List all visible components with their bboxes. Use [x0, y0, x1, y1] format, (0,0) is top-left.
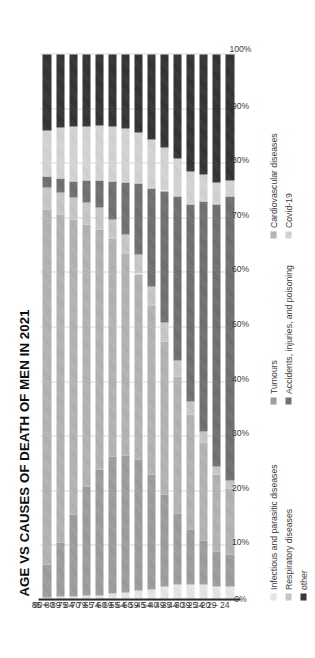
bar-segment [147, 54, 155, 139]
bar-row [173, 54, 181, 600]
bar-segment [212, 182, 220, 204]
legend-item[interactable]: Infectious and parasitic diseases [268, 464, 278, 600]
bar-segment [108, 126, 116, 181]
bar-segment [186, 54, 194, 171]
bar-segment [225, 554, 233, 587]
bar-segment [173, 158, 181, 196]
legend-item[interactable]: Cardiovascular diseases [268, 133, 278, 238]
legend-item[interactable]: Respiratory diseases [283, 508, 293, 600]
bar-segment [134, 132, 142, 184]
bar-segment [173, 196, 181, 360]
bar-row [56, 54, 64, 600]
bar-segment [95, 207, 103, 229]
bar-segment [42, 209, 50, 564]
bar-segment [134, 274, 142, 460]
bar-segment [108, 238, 116, 456]
bar-segment [82, 224, 90, 486]
bar-segment [186, 171, 194, 204]
value-axis-tick: 30% [231, 428, 248, 438]
legend-swatch-icon [270, 232, 277, 239]
bar-segment [82, 202, 90, 224]
bar-segment [173, 513, 181, 584]
bar-row [108, 54, 116, 600]
bar-segment [186, 401, 194, 415]
bar-segment [108, 54, 116, 126]
bar-segment [95, 180, 103, 207]
legend-item[interactable]: Accidents, injuries, and poisoning [283, 265, 293, 404]
legend-item-label: Accidents, injuries, and poisoning [283, 265, 293, 394]
bar-segment [42, 130, 50, 176]
legend-item-label: Covid-19 [283, 193, 293, 228]
rotated-figure-wrapper: AGE VS CAUSES OF DEATH OF MEN IN 2021 10… [0, 0, 315, 658]
bar-segment [56, 179, 64, 193]
bar-segment [82, 54, 90, 126]
bar-segment [160, 341, 168, 494]
bar-segment [212, 551, 220, 586]
value-axis-tick: 50% [231, 318, 248, 328]
bar-row [95, 54, 103, 600]
legend-swatch-icon [285, 232, 292, 239]
bar-segment [95, 54, 103, 125]
bar-segment [160, 191, 168, 322]
bar-segment [173, 584, 181, 600]
bar-row [42, 54, 50, 600]
bar-row [147, 54, 155, 600]
value-axis-tick: 80% [231, 155, 248, 165]
bar-segment [56, 214, 64, 542]
bar-segment [199, 540, 207, 584]
legend-item[interactable]: Covid-19 [283, 193, 293, 238]
bar-segment [147, 139, 155, 188]
bar-segment [108, 456, 116, 593]
value-axis-tick: 100% [229, 43, 251, 53]
bar-segment [69, 197, 77, 219]
bar-segment [42, 564, 50, 597]
bar-segment [121, 455, 129, 592]
bar-segment [121, 128, 129, 183]
bar-segment [160, 54, 168, 147]
category-axis-tick: 90+ [32, 599, 47, 609]
bar-segment [69, 181, 77, 197]
bar-segment [134, 459, 142, 590]
legend-swatch-icon [270, 594, 277, 601]
bar-segment [42, 176, 50, 187]
bar-segment [212, 54, 220, 182]
legend-item[interactable]: Tumours [268, 360, 278, 404]
bar-segment [160, 322, 168, 341]
bar-segment [186, 204, 194, 401]
value-axis-tick: 60% [231, 264, 248, 274]
bar-segment [160, 494, 168, 587]
chart-legend: Infectious and parasitic diseasesTumours… [268, 48, 310, 600]
bar-segment [212, 474, 220, 550]
bar-row [69, 54, 77, 600]
value-axis-tick: 10% [231, 537, 248, 547]
chart-figure: AGE VS CAUSES OF DEATH OF MEN IN 2021 10… [0, 0, 315, 658]
bar-row [82, 54, 90, 600]
bar-segment [147, 305, 155, 474]
bar-row [199, 54, 207, 600]
bar-segment [225, 180, 233, 196]
bar-segment [82, 486, 90, 595]
bar-segment [56, 54, 64, 127]
category-axis-labels: 20 – 2425 – 2930 – 3435 – 3940 – 4445 – … [40, 602, 236, 650]
bar-segment [147, 474, 155, 589]
bar-segment [69, 514, 77, 596]
bar-segment [173, 54, 181, 158]
legend-swatch-icon [300, 594, 307, 601]
bar-segment [186, 529, 194, 584]
bar-segment [69, 54, 77, 126]
bar-segment [121, 234, 129, 253]
bar-segment [69, 126, 77, 181]
legend-item-label: Infectious and parasitic diseases [268, 464, 278, 590]
bar-segment [82, 180, 90, 202]
legend-item[interactable]: other [298, 570, 308, 600]
bar-segment [56, 542, 64, 597]
bar-row [121, 54, 129, 600]
bar-segment [199, 201, 207, 430]
bar-segment [56, 127, 64, 179]
bar-segment [147, 188, 155, 286]
bar-segment [199, 54, 207, 174]
bar-segment [42, 54, 50, 130]
bar-segment [160, 147, 168, 191]
legend-item-label: Tumours [268, 360, 278, 394]
bar-segment [199, 584, 207, 600]
